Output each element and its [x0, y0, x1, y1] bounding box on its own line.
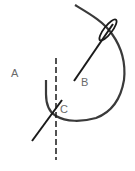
label-c: C: [60, 103, 68, 115]
label-b: B: [81, 76, 88, 88]
line-b: [74, 24, 113, 81]
diagram-canvas: A B C: [0, 0, 135, 171]
label-a: A: [11, 67, 19, 79]
